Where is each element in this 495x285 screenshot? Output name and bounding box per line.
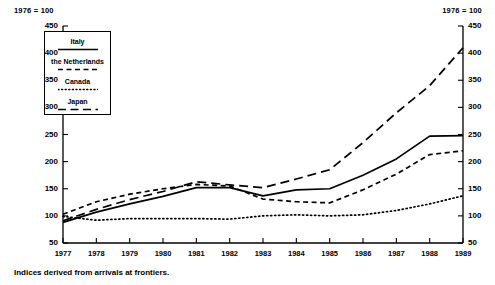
index-base-note-left: 1976 = 100: [14, 6, 54, 15]
chart-footnote: Indices derived from arrivals at frontie…: [14, 268, 169, 277]
y-axis-tick-label: 300: [32, 103, 58, 111]
x-axis-tick-label: 1980: [146, 250, 180, 258]
y-axis-tick-label: 100: [32, 212, 58, 220]
y-axis-tick-label: 400: [468, 49, 494, 57]
y-axis-tick-label: 450: [32, 22, 58, 30]
chart-figure: 1976 = 100 1976 = 100 Italy the Netherla…: [0, 0, 495, 285]
x-axis-tick-label: 1977: [46, 250, 80, 258]
index-base-note-right: 1976 = 100: [442, 6, 482, 15]
legend-swatch-italy: [58, 48, 98, 51]
x-axis-tick-label: 1982: [213, 250, 247, 258]
y-axis-tick-label: 100: [468, 212, 494, 220]
y-axis-tick-label: 400: [32, 49, 58, 57]
x-axis-tick-label: 1988: [413, 250, 447, 258]
legend-entry-netherlands: the Netherlands: [45, 57, 110, 71]
x-axis-tick-label: 1985: [313, 250, 347, 258]
y-axis-tick-label: 50: [32, 239, 58, 247]
x-axis-tick-label: 1987: [379, 250, 413, 258]
y-axis-tick-label: 150: [468, 185, 494, 193]
x-axis-tick-label: 1981: [179, 250, 213, 258]
x-axis-tick-label: 1983: [246, 250, 280, 258]
legend-swatch-canada: [58, 88, 98, 91]
y-axis-tick-label: 450: [468, 22, 494, 30]
x-axis-tick-label: 1984: [279, 250, 313, 258]
legend-swatch-netherlands: [58, 68, 98, 71]
y-axis-tick-label: 50: [468, 239, 494, 247]
y-axis-tick-label: 300: [468, 103, 494, 111]
x-axis-tick-label: 1979: [113, 250, 147, 258]
x-axis-tick-label: 1978: [79, 250, 113, 258]
series-line-japan: [63, 48, 463, 221]
y-axis-tick-label: 200: [32, 158, 58, 166]
x-axis-tick-label: 1986: [346, 250, 380, 258]
legend-swatch-japan: [58, 108, 98, 111]
y-axis-tick-label: 350: [32, 76, 58, 84]
y-axis-tick-label: 250: [468, 131, 494, 139]
legend-label-italy: Italy: [45, 37, 110, 46]
x-axis-tick-label: 1989: [446, 250, 480, 258]
y-axis-tick-label: 200: [468, 158, 494, 166]
y-axis-tick-label: 350: [468, 76, 494, 84]
y-axis-tick-label: 150: [32, 185, 58, 193]
legend-label-netherlands: the Netherlands: [45, 57, 110, 66]
y-axis-tick-label: 250: [32, 131, 58, 139]
